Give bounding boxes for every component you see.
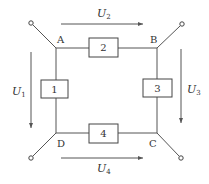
- terminal-D: [29, 156, 33, 160]
- voltage-label-U4: U4: [97, 162, 111, 176]
- lead-C: [157, 133, 179, 156]
- terminal-C: [179, 156, 183, 160]
- element-1: 1: [41, 80, 68, 98]
- element-3: 3: [143, 79, 172, 97]
- voltage-label-U3: U3: [187, 83, 201, 97]
- element-label-4: 4: [100, 128, 106, 139]
- node-label-C: C: [149, 138, 157, 149]
- voltage-label-U2: U2: [97, 7, 111, 21]
- terminal-B: [180, 22, 184, 26]
- terminal-A: [29, 21, 33, 25]
- node-label-B: B: [150, 34, 157, 45]
- node-label-D: D: [57, 138, 65, 149]
- lead-D: [33, 133, 56, 156]
- lead-B: [157, 26, 180, 48]
- element-label-3: 3: [154, 83, 160, 94]
- lead-A: [33, 25, 56, 48]
- circuit-loop: [56, 48, 157, 133]
- element-label-2: 2: [100, 42, 106, 53]
- element-4: 4: [89, 124, 118, 143]
- circuit-diagram: 1 2 3 4 A B C D U1 U2 U3 U4: [0, 0, 209, 184]
- element-2: 2: [89, 38, 118, 57]
- element-label-1: 1: [51, 84, 57, 95]
- voltage-label-U1: U1: [12, 85, 26, 99]
- node-label-A: A: [56, 34, 65, 45]
